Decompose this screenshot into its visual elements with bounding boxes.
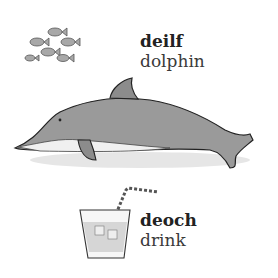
- dolphin-eye: [59, 119, 62, 122]
- ice-cube: [95, 226, 104, 235]
- fish-icon: [25, 55, 39, 61]
- entry-english-word: dolphin: [140, 52, 205, 70]
- fish-icon: [61, 38, 80, 46]
- dolphin-shadow: [30, 152, 250, 168]
- ice-cube: [108, 230, 117, 239]
- fish-icon: [30, 38, 49, 46]
- fish-icon: [48, 28, 67, 36]
- fish-icon: [57, 54, 74, 62]
- dolphin-illustration: [15, 78, 253, 168]
- fish-icon: [41, 48, 60, 56]
- entry-irish-word: deilf: [140, 32, 183, 50]
- illustration-canvas: [0, 0, 278, 278]
- fish-school-illustration: [25, 28, 80, 62]
- drink-liquid: [83, 222, 127, 252]
- dolphin-dorsal-fin: [110, 78, 138, 99]
- entry-irish-word: deoch: [140, 211, 197, 229]
- entry-english-word: drink: [140, 231, 186, 249]
